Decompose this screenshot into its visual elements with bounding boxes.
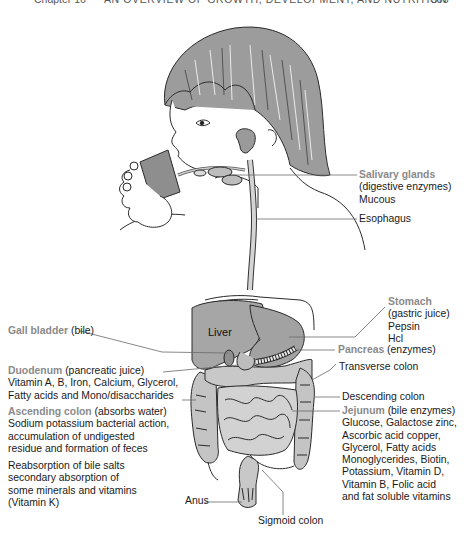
reabsorption-text: Reabsorption of bile salts — [8, 460, 137, 472]
label-jejunum: Jejunum (bile enzymes) Glucose, Galactos… — [342, 405, 457, 503]
anus-heading: Anus — [185, 495, 209, 506]
label-anus: Anus — [185, 495, 209, 507]
jejunum-nutrient: Glucose, Galactose zinc, — [342, 417, 457, 429]
stomach-detail: (gastric juice) — [388, 308, 450, 320]
intestines-illustration — [191, 352, 314, 507]
reabsorption-text: secondary absorption of — [8, 472, 137, 484]
duodenum-nutrient: Fatty acids and Mono/disaccharides — [8, 390, 178, 402]
duodenum-nutrient: Vitamin A, B, Iron, Calcium, Glycerol, — [8, 377, 178, 389]
label-pancreas: Pancreas (enzymes) — [338, 344, 436, 356]
gallbladder-heading: Gall bladder — [8, 325, 68, 336]
duodenum-detail: (pancreatic juice) — [65, 365, 144, 376]
label-stomach: Stomach (gastric juice) Pepsin Hcl — [388, 296, 450, 345]
label-transverse-colon: Transverse colon — [339, 361, 418, 373]
descending-heading: Descending colon — [342, 391, 425, 402]
jejunum-nutrient: Monoglycerides, Biotin, — [342, 454, 457, 466]
label-duodenum: Duodenum (pancreatic juice) Vitamin A, B… — [8, 365, 178, 402]
label-gall-bladder: Gall bladder (bile) — [8, 325, 94, 337]
label-reabsorption: Reabsorption of bile salts secondary abs… — [8, 460, 137, 509]
jejunum-nutrient: Vitamin B, Folic acid — [342, 479, 457, 491]
jejunum-nutrient: Glycerol, Fatty acids — [342, 442, 457, 454]
ascending-function: residue and formation of feces — [8, 443, 169, 455]
gallbladder-detail: (bile) — [71, 325, 94, 336]
ascending-detail: (absorbs water) — [95, 406, 167, 417]
esophagus-illustration — [250, 160, 254, 290]
reabsorption-text: (Vitamin K) — [8, 497, 137, 509]
salivary-detail: (digestive enzymes) — [359, 181, 451, 193]
label-descending-colon: Descending colon — [342, 391, 425, 403]
child-head-illustration — [120, 27, 366, 250]
sigmoid-leader — [262, 470, 283, 515]
label-sigmoid-colon: Sigmoid colon — [258, 515, 323, 527]
label-esophagus: Esophagus — [359, 213, 411, 225]
label-salivary-glands: Salivary glands (digestive enzymes) Muco… — [359, 169, 451, 206]
liver-label: Liver — [208, 326, 232, 338]
ascending-function: accumulation of undigested — [8, 431, 169, 443]
esophagus-heading: Esophagus — [359, 213, 411, 225]
salivary-heading: Salivary glands — [359, 169, 451, 181]
label-ascending-colon: Ascending colon (absorbs water) Sodium p… — [8, 406, 169, 455]
pancreas-detail: (enzymes) — [387, 344, 436, 355]
pancreas-heading: Pancreas — [338, 344, 384, 355]
transverse-leader — [312, 364, 336, 380]
jejunum-detail: (bile enzymes) — [388, 405, 456, 416]
jejunum-nutrient: and fat soluble vitamins — [342, 491, 457, 503]
duodenum-heading: Duodenum — [8, 365, 62, 376]
stomach-heading: Stomach — [388, 296, 450, 308]
ascending-heading: Ascending colon — [8, 406, 92, 417]
jejunum-nutrient: Potassium, Vitamin D, — [342, 466, 457, 478]
transverse-heading: Transverse colon — [339, 361, 418, 372]
stomach-detail: Pepsin — [388, 321, 450, 333]
ascending-function: Sodium potassium bacterial action, — [8, 418, 169, 430]
salivary-detail: Mucous — [359, 194, 451, 206]
sigmoid-heading: Sigmoid colon — [258, 515, 323, 526]
jejunum-heading: Jejunum — [342, 405, 385, 416]
reabsorption-text: some minerals and vitamins — [8, 485, 137, 497]
jejunum-nutrient: Ascorbic acid copper, — [342, 430, 457, 442]
